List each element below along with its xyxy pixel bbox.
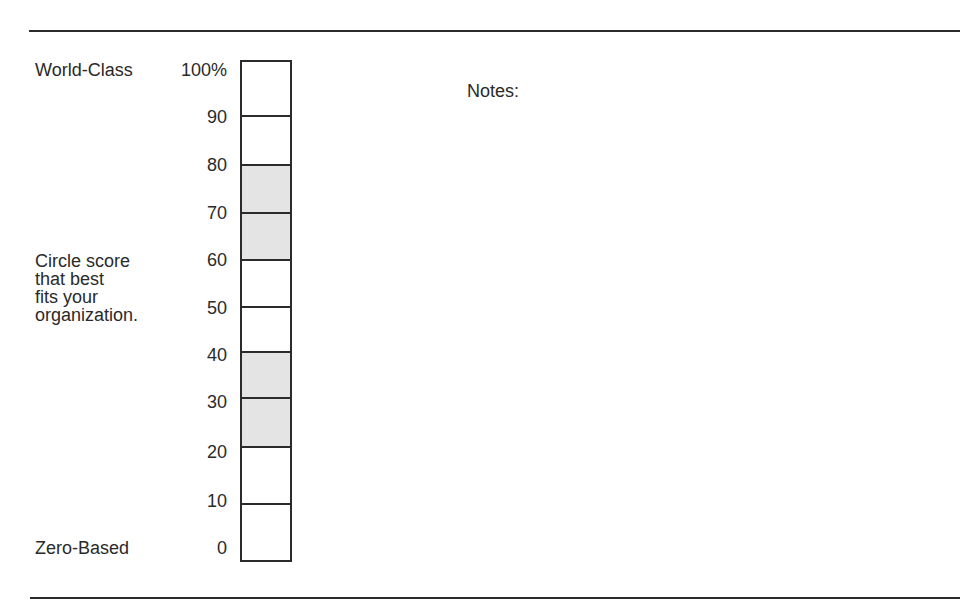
top-rule	[29, 30, 960, 32]
score-cell-80-90[interactable]	[242, 117, 290, 166]
zero-based-label: Zero-Based	[35, 538, 129, 558]
scale-tick-label: 90	[181, 107, 227, 127]
scale-tick-label: 0	[181, 538, 227, 558]
notes-label: Notes:	[467, 81, 519, 101]
scale-tick-label: 100%	[181, 60, 227, 80]
score-cell-70-80[interactable]	[242, 166, 290, 214]
instruction-text: Circle score that best fits your organiz…	[35, 252, 138, 324]
scale-tick-label: 20	[181, 442, 227, 462]
scale-tick-label: 30	[181, 392, 227, 412]
scale-tick-label: 70	[181, 203, 227, 223]
score-scale	[240, 60, 292, 562]
instruction-line: that best	[35, 270, 138, 288]
scale-tick-label: 60	[181, 250, 227, 270]
score-cell-0-10[interactable]	[242, 505, 290, 562]
scale-tick-label: 80	[181, 155, 227, 175]
score-cell-50-60[interactable]	[242, 261, 290, 308]
score-cell-30-40[interactable]	[242, 353, 290, 399]
bottom-rule	[30, 597, 960, 599]
instruction-line: Circle score	[35, 252, 138, 270]
instruction-line: fits your	[35, 288, 138, 306]
score-cell-90-100[interactable]	[242, 62, 290, 117]
score-cell-40-50[interactable]	[242, 308, 290, 353]
score-cell-60-70[interactable]	[242, 214, 290, 261]
world-class-label: World-Class	[35, 60, 133, 80]
score-cell-10-20[interactable]	[242, 448, 290, 505]
score-cell-20-30[interactable]	[242, 399, 290, 448]
instruction-line: organization.	[35, 306, 138, 324]
scale-tick-label: 40	[181, 345, 227, 365]
scale-tick-label: 50	[181, 298, 227, 318]
scale-tick-label: 10	[181, 491, 227, 511]
